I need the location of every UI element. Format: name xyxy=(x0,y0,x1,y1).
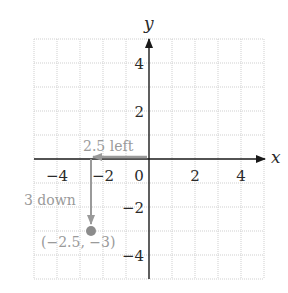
x-tick-label: −2 xyxy=(92,167,114,185)
x-tick-label: −4 xyxy=(46,167,68,185)
point-label: (−2.5, −3) xyxy=(41,234,115,250)
left-move-label: 2.5 left xyxy=(83,138,134,154)
x-tick-label: 4 xyxy=(236,167,246,185)
y-axis-label: y xyxy=(143,13,154,33)
coordinate-plane: x y −4 −2 0 2 4 4 2 −2 −4 2.5 left 3 dow… xyxy=(0,0,288,293)
x-axis-label: x xyxy=(271,147,281,167)
y-tick-label: 2 xyxy=(134,103,144,121)
y-tick-label: −4 xyxy=(122,247,144,265)
y-tick-label: −2 xyxy=(122,199,144,217)
y-tick-label: 4 xyxy=(134,55,144,73)
x-tick-label: 2 xyxy=(190,167,200,185)
x-tick-label: 0 xyxy=(134,167,144,185)
down-move-label: 3 down xyxy=(24,192,76,208)
